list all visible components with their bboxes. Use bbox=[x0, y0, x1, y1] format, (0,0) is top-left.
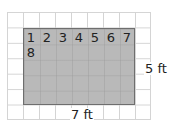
count-1: 1 bbox=[23, 31, 39, 44]
count-8: 8 bbox=[23, 46, 39, 59]
count-4: 4 bbox=[71, 31, 87, 44]
width-label: 7 ft bbox=[70, 108, 94, 121]
height-label: 5 ft bbox=[144, 62, 168, 75]
count-3: 3 bbox=[55, 31, 71, 44]
count-5: 5 bbox=[87, 31, 103, 44]
count-6: 6 bbox=[103, 31, 119, 44]
count-7: 7 bbox=[119, 31, 135, 44]
count-2: 2 bbox=[39, 31, 55, 44]
